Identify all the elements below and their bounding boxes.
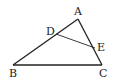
label-a: A xyxy=(73,5,83,18)
label-c: C xyxy=(99,67,107,80)
label-d: D xyxy=(46,25,55,38)
label-b: B xyxy=(9,67,17,80)
label-e: E xyxy=(97,41,105,54)
triangle-diagram: A B C D E xyxy=(0,0,113,83)
